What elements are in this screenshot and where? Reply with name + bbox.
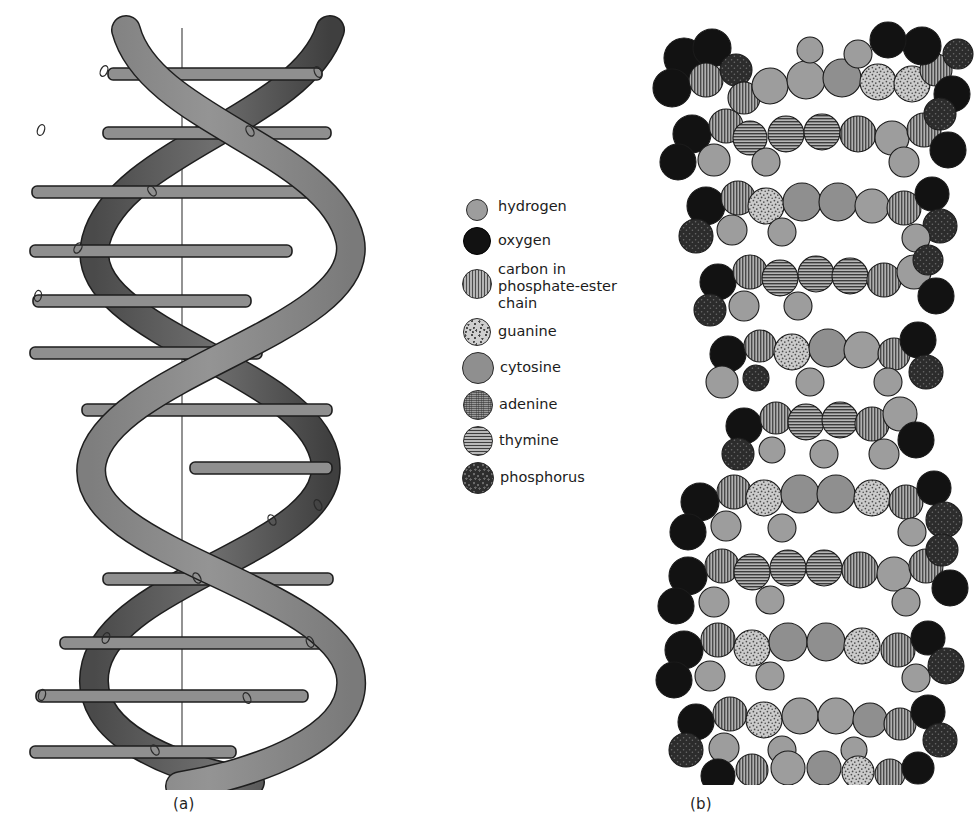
legend-label-phosphorus: phosphorus	[500, 462, 585, 486]
space-filling-model-svg	[640, 10, 974, 790]
panel-a-ribbon-helix	[0, 0, 420, 800]
base-pair-rung	[190, 462, 332, 474]
thymine-swatch-icon	[463, 426, 493, 456]
helix-layer	[660, 98, 966, 180]
legend-item-hydrogen: hydrogen	[462, 196, 662, 221]
legend-item-adenine: adenine	[462, 390, 662, 420]
caption-panel-b: (b)	[690, 795, 712, 813]
legend-label-thymine: thymine	[499, 426, 559, 449]
helix-layer	[679, 177, 957, 253]
legend-item-oxygen: oxygen	[462, 227, 662, 255]
atom-sphere-group	[653, 22, 973, 790]
legend-label-cytosine: cytosine	[500, 352, 561, 376]
helix-layer	[670, 471, 962, 550]
adenine-swatch-icon	[463, 390, 493, 420]
panel-b-space-filling-model	[640, 10, 974, 790]
legend-item-carbon: carbon in phosphate-ester chain	[462, 261, 662, 312]
phosphorus-swatch-icon	[462, 462, 494, 494]
legend-label-carbon: carbon in phosphate-ester chain	[498, 261, 617, 312]
base-pair-rung	[30, 245, 292, 257]
legend-label-oxygen: oxygen	[498, 227, 551, 249]
helix-layer	[656, 621, 964, 698]
legend-label-guanine: guanine	[498, 318, 557, 340]
base-pair-rung	[32, 186, 320, 198]
guanine-swatch-icon	[463, 318, 491, 346]
helix-layer	[653, 22, 973, 114]
legend-item-thymine: thymine	[462, 426, 662, 456]
legend-label-adenine: adenine	[499, 390, 557, 413]
helix-layer	[658, 534, 968, 624]
legend-label-hydrogen: hydrogen	[498, 196, 567, 215]
carbon-swatch-icon	[462, 269, 492, 299]
legend-item-guanine: guanine	[462, 318, 662, 346]
helix-layer	[722, 397, 934, 470]
legend-item-phosphorus: phosphorus	[462, 462, 662, 494]
caption-panel-a: (a)	[173, 795, 195, 813]
helix-diagram-svg	[0, 0, 420, 800]
legend: hydrogen oxygen carbon in phosphate-este…	[462, 196, 662, 500]
base-pair-rung	[60, 637, 328, 649]
sugar-marker	[36, 124, 46, 137]
base-pair-rung	[33, 295, 251, 307]
hydrogen-swatch-icon	[466, 199, 488, 221]
base-pair-rung	[36, 690, 308, 702]
oxygen-swatch-icon	[463, 227, 491, 255]
legend-item-cytosine: cytosine	[462, 352, 662, 384]
helix-layer	[694, 245, 954, 326]
base-pair-rung	[30, 746, 236, 758]
cytosine-swatch-icon	[462, 352, 494, 384]
helix-layer	[706, 322, 943, 398]
